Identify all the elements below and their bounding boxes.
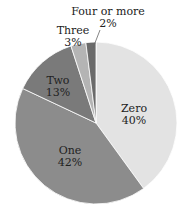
pie-slices [15, 42, 177, 204]
label-zero: Zero 40% [121, 103, 147, 127]
label-three: Three 3% [57, 25, 90, 49]
pie-chart [0, 0, 189, 214]
label-two: Two 13% [46, 75, 70, 99]
label-three-pct: 3% [57, 37, 90, 49]
label-one: One 42% [58, 145, 82, 169]
label-two-pct: 13% [46, 87, 70, 99]
label-zero-pct: 40% [121, 115, 147, 127]
label-one-pct: 42% [58, 157, 82, 169]
